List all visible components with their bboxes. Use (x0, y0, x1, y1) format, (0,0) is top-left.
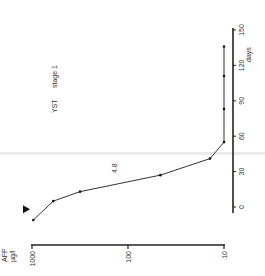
data-point (209, 157, 212, 160)
afp-series-points (32, 45, 225, 221)
triangle-marker-icon (23, 205, 30, 213)
x-tick-label: 150 (238, 24, 245, 36)
data-point (223, 108, 226, 111)
x-tick-label: 30 (238, 168, 245, 176)
days-ticks: 0306090120150 (233, 24, 245, 209)
chart-title-yst: YST (51, 99, 58, 113)
y-axis-label-afp: AFP (1, 248, 8, 262)
data-point (223, 141, 226, 144)
data-point (159, 174, 162, 177)
x-tick-label: 60 (238, 132, 245, 140)
x-tick-label: 90 (238, 97, 245, 105)
data-point (79, 190, 82, 193)
afp-series-line (33, 47, 224, 220)
x-axis-label: days (245, 47, 253, 62)
y-tick-label: 10 (221, 251, 228, 259)
afp-ticks: 100010010 (29, 245, 228, 267)
y-tick-label: 100 (125, 251, 132, 263)
y-axis-label-unit: µg/l (9, 250, 17, 262)
data-point (52, 200, 55, 203)
afp-chart: 0306090120150 100010010 YST stage 1 4.8 … (0, 0, 265, 276)
data-point (32, 219, 35, 222)
data-point (223, 45, 226, 48)
x-tick-label: 120 (238, 59, 245, 71)
y-tick-label: 1000 (29, 251, 36, 267)
chart-title-stage: stage 1 (51, 65, 59, 88)
data-point (223, 75, 226, 78)
annotation-label: 4.8 (111, 163, 118, 173)
x-tick-label: 0 (238, 205, 245, 209)
